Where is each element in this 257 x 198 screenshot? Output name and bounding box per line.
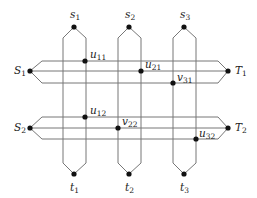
label-s1: s1: [70, 9, 80, 22]
node-u32: [193, 136, 198, 141]
node-s1: [71, 24, 76, 29]
label-u32: u32: [199, 128, 215, 141]
label-s2: s2: [125, 9, 135, 22]
label-t1: t1: [70, 182, 79, 195]
label-s3: s3: [180, 9, 190, 22]
label-T2: T2: [235, 122, 247, 135]
node-S1: [27, 68, 32, 73]
node-u12: [82, 114, 87, 119]
node-t1: [71, 171, 76, 176]
label-u12: u12: [90, 105, 106, 118]
label-S2: S2: [14, 122, 26, 135]
node-t2: [126, 171, 131, 176]
node-s2: [126, 24, 131, 29]
vertical-tube-3: [173, 27, 196, 174]
label-u11: u11: [90, 49, 106, 62]
node-u11: [82, 58, 87, 63]
node-T2: [225, 125, 230, 130]
node-u21: [138, 68, 143, 73]
label-v22: v22: [122, 116, 137, 129]
node-v31: [170, 80, 175, 85]
vertical-tube-1: [63, 27, 86, 174]
label-u21: u21: [145, 59, 161, 72]
horizontal-tube-1: [30, 61, 228, 83]
label-v31: v31: [177, 72, 192, 85]
label-S1: S1: [14, 65, 26, 78]
node-s3: [181, 24, 186, 29]
node-v22: [115, 125, 120, 130]
label-t2: t2: [125, 182, 134, 195]
node-S2: [27, 125, 32, 130]
node-t3: [181, 171, 186, 176]
network-diagram: [0, 0, 257, 198]
label-T1: T1: [235, 65, 247, 78]
vertical-tube-2: [118, 27, 141, 174]
label-t3: t3: [180, 182, 189, 195]
node-T1: [225, 68, 230, 73]
